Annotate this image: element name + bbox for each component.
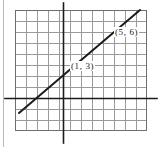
point-label-layer: (1, 3) (5, 6) (0, 0, 163, 147)
coordinate-plane-figure: (1, 3) (5, 6) (0, 0, 163, 147)
point-label-2: (5, 6) (114, 27, 139, 37)
point-label-1: (1, 3) (70, 61, 95, 71)
